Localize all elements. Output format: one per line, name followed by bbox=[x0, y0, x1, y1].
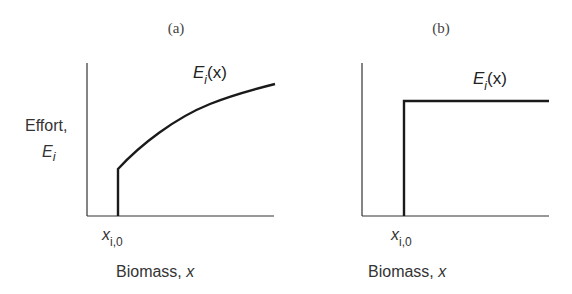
curve-label-a: Ei(x) bbox=[193, 63, 227, 87]
y-axis-var-a: Ei bbox=[42, 143, 57, 164]
effort-curve-b bbox=[404, 101, 549, 216]
x-tick-label-b: xi,0 bbox=[390, 226, 412, 249]
panel-a: (a) Ei(x) Effort, Ei xi,0 Biomass, x bbox=[25, 20, 275, 280]
effort-curve-a bbox=[118, 84, 275, 216]
y-axis-label-a: Effort, bbox=[25, 117, 67, 134]
x-tick-label-a: xi,0 bbox=[101, 226, 123, 249]
figure: (a) Ei(x) Effort, Ei xi,0 Biomass, x (b)… bbox=[0, 0, 572, 294]
panel-a-label: (a) bbox=[168, 20, 185, 37]
x-axis-label-b: Biomass, x bbox=[368, 263, 447, 280]
curve-label-b: Ei(x) bbox=[473, 69, 507, 93]
panel-b-label: (b) bbox=[432, 20, 450, 37]
panel-b: (b) Ei(x) xi,0 Biomass, x bbox=[362, 20, 549, 280]
x-axis-label-a: Biomass, x bbox=[116, 263, 195, 280]
